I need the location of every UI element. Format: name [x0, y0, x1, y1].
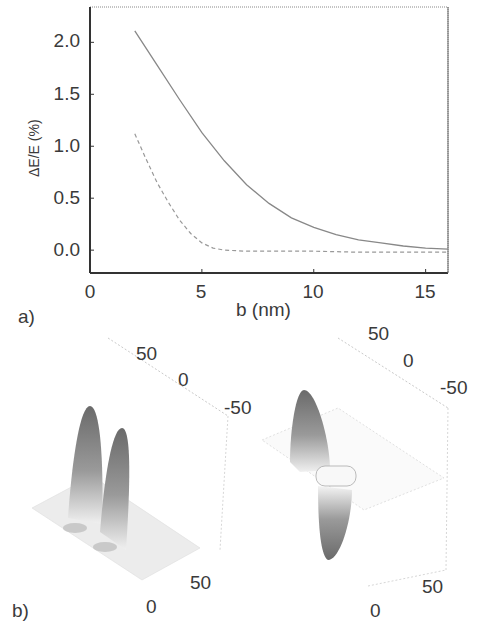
- surface-right-tick: -50: [440, 377, 467, 399]
- surface-left-tick: 0: [146, 596, 157, 618]
- surface-left-tick: -50: [224, 397, 251, 419]
- surface-right-tick: 0: [370, 600, 381, 622]
- surface-right-tick: 0: [403, 350, 414, 372]
- y-tick-label: 0.5: [20, 187, 80, 209]
- surface-left-tick: 50: [136, 343, 157, 365]
- y-tick-label: 0.0: [20, 239, 80, 261]
- x-tick-label: 15: [405, 281, 445, 303]
- figure: 2.0 1.5 1.0 0.5 0.0 ΔE/E (%) 0 5 10 15 b…: [0, 0, 478, 634]
- x-tick-label: 10: [293, 281, 333, 303]
- x-tick-label: 0: [70, 281, 110, 303]
- series-solid-line: [135, 31, 448, 249]
- surface-left-tick: 50: [190, 572, 211, 594]
- surface-left-tick: 0: [178, 369, 189, 391]
- surface-right: [262, 338, 448, 586]
- y-axis-title: ΔE/E (%): [26, 119, 42, 177]
- surface-left: [32, 338, 228, 580]
- y-tick-label: 2.0: [20, 30, 80, 52]
- series-dashed-line: [135, 134, 448, 252]
- x-tick-label: 5: [181, 281, 221, 303]
- surface-right-tick: 50: [368, 323, 389, 345]
- surface-right-tick: 50: [422, 576, 443, 598]
- panel-b-label: b): [12, 600, 29, 622]
- y-tick-label: 1.5: [20, 83, 80, 105]
